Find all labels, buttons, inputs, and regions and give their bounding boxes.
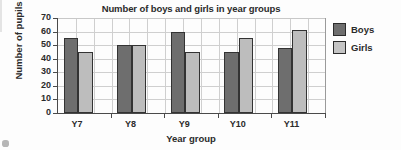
x-axis-tick-mark: [218, 114, 219, 118]
gridline-vertical: [255, 18, 256, 113]
y-axis-tick-label: 20: [29, 80, 51, 90]
legend-label-girls: Girls: [351, 42, 373, 53]
legend-swatch-girls: [333, 41, 346, 54]
y-axis-tick-label: 0: [29, 107, 51, 117]
x-axis-tick-mark: [271, 114, 272, 118]
plot-inner: [58, 18, 326, 113]
plot-top-edge: [58, 18, 326, 19]
x-axis-tick-mark: [325, 114, 326, 118]
bar-boys-y10: [224, 52, 239, 113]
x-axis-group-label-y8: Y8: [111, 119, 151, 129]
x-axis-group-label-y10: Y10: [218, 119, 258, 129]
bar-boys-y9: [171, 32, 186, 113]
bar-boys-y8: [117, 45, 132, 113]
scan-artifact-bottom-left: [2, 140, 9, 147]
bar-girls-y8: [132, 45, 147, 113]
x-axis-group-label-y11: Y11: [271, 119, 311, 129]
gridline-horizontal: [58, 45, 326, 46]
y-axis-tick-label: 70: [29, 12, 51, 22]
y-axis-title: Number of pupils: [13, 0, 24, 86]
plot-right-edge: [325, 18, 326, 113]
legend-label-boys: Boys: [351, 24, 374, 35]
x-axis-group-label-y9: Y9: [164, 119, 204, 129]
chart-title: Number of boys and girls in year groups: [57, 3, 325, 14]
plot-area: [57, 18, 326, 114]
gridline-vertical: [201, 18, 202, 113]
bar-girls-y9: [185, 52, 200, 113]
y-axis-tick-label: 60: [29, 26, 51, 36]
legend-item-girls: Girls: [333, 38, 397, 56]
x-axis-tick-mark: [111, 114, 112, 118]
gridline-vertical: [272, 18, 273, 113]
gridline-vertical: [112, 18, 113, 113]
gridline-vertical: [147, 18, 148, 113]
gridline-vertical: [165, 18, 166, 113]
legend-swatch-boys: [333, 23, 346, 36]
gridline-vertical: [219, 18, 220, 113]
x-axis-group-label-y7: Y7: [57, 119, 97, 129]
y-axis-tick-label: 40: [29, 53, 51, 63]
scan-artifact-left-edge: [0, 0, 2, 32]
x-axis-tick-mark: [164, 114, 165, 118]
bar-boys-y7: [64, 38, 79, 113]
legend-item-boys: Boys: [333, 20, 397, 38]
y-axis-tick-label: 10: [29, 93, 51, 103]
y-axis-tick-label: 30: [29, 66, 51, 76]
bar-girls-y10: [239, 38, 254, 113]
x-axis-title: Year group: [57, 133, 325, 144]
bar-girls-y11: [292, 30, 307, 113]
gridline-vertical: [94, 18, 95, 113]
bar-girls-y7: [78, 52, 93, 113]
gridline-vertical: [308, 18, 309, 113]
gridline-horizontal: [58, 32, 326, 33]
chart-legend: BoysGirls: [333, 20, 397, 56]
bar-boys-y11: [278, 48, 293, 113]
bar-chart-figure: Number of boys and girls in year groups …: [0, 0, 401, 150]
y-axis-tick-label: 50: [29, 39, 51, 49]
